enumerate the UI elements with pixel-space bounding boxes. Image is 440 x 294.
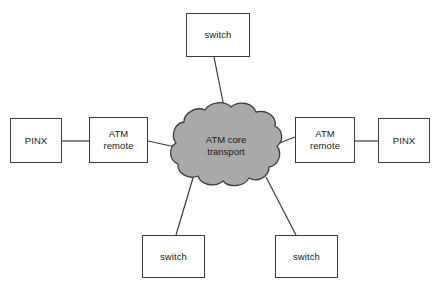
node-label-atm-remote-left: ATM remote [103,128,133,151]
node-atm-remote-right: ATM remote [295,117,355,163]
atm-core-transport-cloud-shape [171,103,282,186]
node-label-switch-top: switch [205,29,232,41]
node-label-pinx-right: PINX [393,135,416,147]
node-switch-bottom-right: switch [275,235,338,278]
node-label-atm-remote-right: ATM remote [310,128,340,151]
node-pinx-right: PINX [378,118,430,163]
node-label-pinx-left: PINX [25,135,48,147]
node-switch-bottom-left: switch [142,235,205,278]
node-label-switch-bottom-left: switch [160,251,187,263]
network-diagram: ATM core transport switchPINXATM remoteA… [0,0,440,294]
node-switch-top: switch [186,13,250,57]
node-pinx-left: PINX [10,118,62,163]
node-atm-remote-left: ATM remote [89,117,148,163]
node-label-switch-bottom-right: switch [293,251,320,263]
